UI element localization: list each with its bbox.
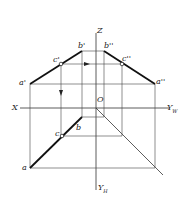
label-b-top: b xyxy=(76,124,81,132)
point-c-top xyxy=(60,134,64,138)
point-c-front xyxy=(59,62,63,66)
line-ab-top xyxy=(30,117,82,168)
label-x: X xyxy=(12,104,18,112)
diagram-canvas xyxy=(0,0,184,197)
label-c-side: c'' xyxy=(122,55,131,63)
label-a-front: a' xyxy=(19,79,26,87)
projection-diagram: Z X YW YH O a' b' c' a'' b'' c'' a b c xyxy=(0,0,184,197)
label-z: Z xyxy=(97,27,103,35)
arrow-down-icon xyxy=(59,90,63,96)
label-c-top: c xyxy=(55,130,59,138)
label-c-front: c' xyxy=(53,56,60,64)
arrow-right-icon xyxy=(84,62,90,66)
diagonal-45 xyxy=(96,108,163,175)
label-a-top: a xyxy=(22,164,27,172)
label-b-front: b' xyxy=(78,42,85,50)
label-b-side: b'' xyxy=(104,42,114,50)
label-yw: YW xyxy=(167,104,177,114)
label-a-side: a'' xyxy=(156,78,165,86)
label-origin: O xyxy=(97,96,104,104)
label-yh: YH xyxy=(98,184,108,194)
